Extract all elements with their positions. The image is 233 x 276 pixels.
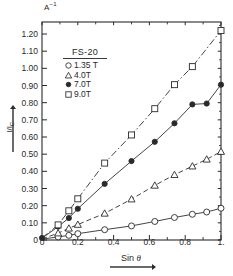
data-point [152, 106, 158, 112]
data-point [172, 121, 177, 126]
legend-item-label: 9.0T [74, 90, 91, 99]
open-circle-icon [63, 61, 74, 70]
chart-legend: FS-20 1.35 T4.0T7.0T9.0T [63, 47, 125, 99]
data-point [101, 210, 108, 216]
data-point [66, 232, 72, 238]
data-point [66, 215, 71, 220]
legend-item: 9.0T [63, 90, 125, 99]
legend-item: 4.0T [63, 71, 125, 80]
legend-item: 1.35 T [63, 61, 125, 70]
x-axis-title-symbol: θ [137, 253, 141, 263]
data-point [129, 132, 135, 138]
chart-figure: A−1 I/IC 00.100.200.300.400.500.600.700.… [0, 0, 233, 276]
data-point [152, 139, 157, 144]
data-point [128, 196, 135, 202]
data-series [42, 82, 224, 238]
data-point [55, 222, 61, 228]
legend-item-label: 1.35 T [74, 61, 98, 70]
data-point [203, 156, 210, 162]
data-point [189, 211, 195, 217]
x-axis-title-prefix: Sin [121, 253, 137, 263]
legend-item-label: 4.0T [74, 71, 91, 80]
open-triangle-icon [63, 71, 74, 80]
data-point [102, 160, 108, 166]
plot-canvas [0, 0, 233, 276]
data-point [217, 148, 224, 154]
data-point [55, 230, 62, 236]
data-point [129, 158, 134, 163]
data-point [171, 171, 178, 177]
data-point [75, 231, 81, 237]
data-point [204, 101, 209, 106]
data-point [218, 205, 224, 211]
data-point [189, 163, 196, 169]
data-point [152, 218, 158, 224]
data-point [75, 206, 80, 211]
open-square-icon [63, 90, 74, 99]
x-axis-title: Sin θ [98, 253, 164, 263]
data-point [129, 223, 135, 229]
filled-circle-icon [63, 80, 74, 89]
data-point [151, 182, 158, 188]
x-axis-arrow-icon [110, 266, 152, 268]
data-point [75, 196, 81, 202]
data-point [218, 28, 224, 34]
data-point [171, 82, 177, 88]
legend-item-label: 7.0T [74, 80, 91, 89]
legend-item: 7.0T [63, 80, 125, 89]
legend-title: FS-20 [63, 47, 107, 59]
data-point [171, 215, 177, 221]
data-point [218, 82, 223, 87]
data-point [102, 181, 107, 186]
data-point [102, 227, 108, 233]
data-point [66, 208, 72, 214]
legend-item-group: 1.35 T4.0T7.0T9.0T [63, 61, 125, 99]
data-point [74, 221, 81, 227]
data-point [190, 102, 195, 107]
data-point [65, 225, 72, 231]
data-point [204, 209, 210, 215]
x-axis-title-group: Sin θ [98, 253, 164, 273]
data-point [189, 64, 195, 70]
